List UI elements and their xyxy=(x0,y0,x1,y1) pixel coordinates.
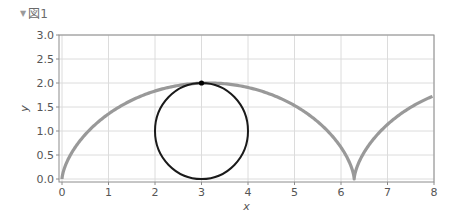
y-tick-label: 1.5 xyxy=(37,101,55,114)
x-axis-label: x xyxy=(242,200,250,213)
chart: 012345678 0.00.51.01.52.02.53.0 x y xyxy=(0,0,456,218)
y-tick-label: 0.0 xyxy=(37,173,55,186)
x-tick-label: 1 xyxy=(105,186,112,199)
y-axis-label: y xyxy=(18,105,31,113)
tracing-point xyxy=(199,80,204,85)
y-axis-ticks: 0.00.51.01.52.02.53.0 xyxy=(37,29,60,186)
y-tick-label: 3.0 xyxy=(37,29,55,42)
x-tick-label: 0 xyxy=(59,186,66,199)
x-axis-ticks: 012345678 xyxy=(59,182,438,199)
x-tick-label: 3 xyxy=(198,186,205,199)
x-tick-label: 7 xyxy=(384,186,391,199)
x-tick-label: 2 xyxy=(152,186,159,199)
y-tick-label: 1.0 xyxy=(37,125,55,138)
x-tick-label: 8 xyxy=(431,186,438,199)
y-tick-label: 2.5 xyxy=(37,53,55,66)
x-tick-label: 4 xyxy=(245,186,252,199)
x-tick-label: 5 xyxy=(291,186,298,199)
x-tick-label: 6 xyxy=(338,186,345,199)
plot-series xyxy=(62,80,432,179)
y-tick-label: 0.5 xyxy=(37,149,55,162)
y-tick-label: 2.0 xyxy=(37,77,55,90)
